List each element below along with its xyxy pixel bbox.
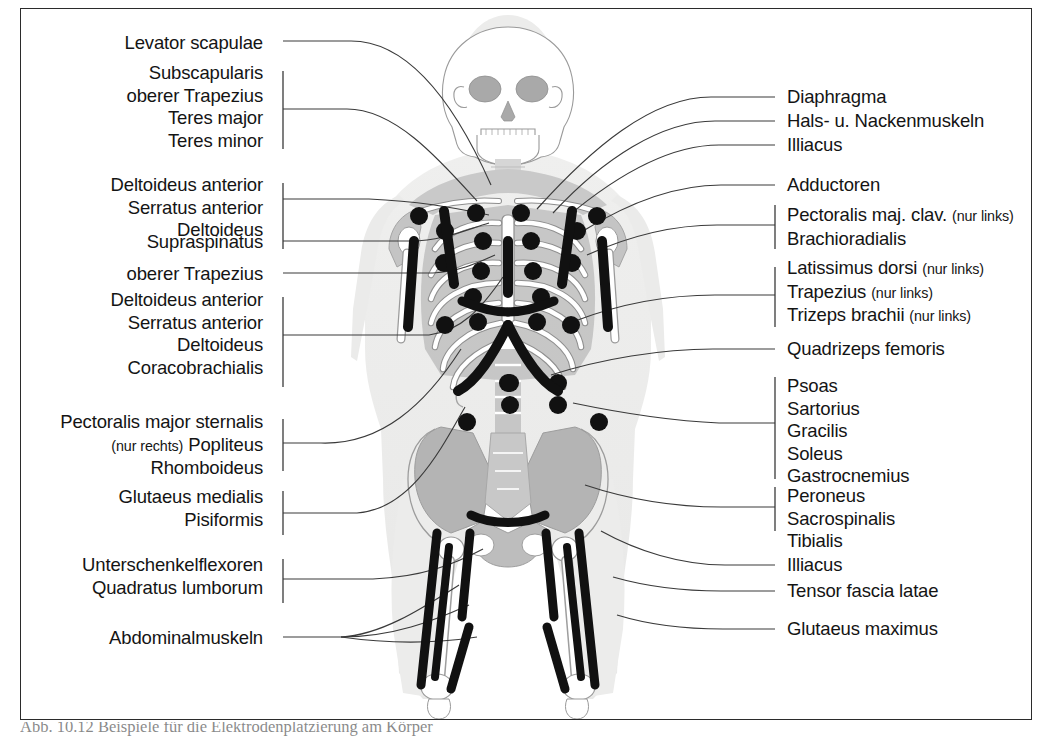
label-line: Diaphragma xyxy=(787,86,886,109)
label-group-glutaeus-maximus[interactable]: Glutaeus maximus xyxy=(787,618,938,641)
label-line: Subscapularis xyxy=(127,62,263,85)
label-line-popliteus: (nur rechts) Popliteus xyxy=(60,434,263,458)
label-group-unterschenkelflexoren[interactable]: Unterschenkelflexoren Quadratus lumborum xyxy=(82,554,263,599)
label-line: Deltoideus xyxy=(111,334,263,357)
label-line: Teres major xyxy=(127,107,263,130)
label-line-latissimus: Latissimus dorsi (nur links) xyxy=(787,257,984,281)
label-line-pectoralis-clav: Pectoralis maj. clav. (nur links) xyxy=(787,204,1014,228)
eye-socket-left xyxy=(469,76,501,102)
label-group-abdominalmuskeln[interactable]: Abdominalmuskeln xyxy=(109,627,263,650)
label-group-pectoralis-brachioradialis[interactable]: Pectoralis maj. clav. (nur links) Brachi… xyxy=(787,204,1014,250)
label-line: Sartorius xyxy=(787,398,909,421)
label-line: Unterschenkelflexoren xyxy=(82,554,263,577)
label-line: Coracobrachialis xyxy=(111,357,263,380)
label-line: Abdominalmuskeln xyxy=(109,627,263,650)
label-group-levator-scapulae[interactable]: Levator scapulae xyxy=(125,32,264,55)
label-line: Serratus anterior xyxy=(111,197,263,220)
label-line: Adductoren xyxy=(787,174,880,197)
label-group-illiacus-lower[interactable]: Illiacus xyxy=(787,554,842,577)
label-line: oberer Trapezius xyxy=(127,85,263,108)
qualifier-nur-links: (nur links) xyxy=(952,208,1014,224)
label-line: Levator scapulae xyxy=(125,32,264,55)
label-text: Trapezius xyxy=(787,281,866,302)
label-group-oberer-trapezius[interactable]: oberer Trapezius xyxy=(127,263,263,286)
label-line: Psoas xyxy=(787,375,909,398)
label-line: Brachioradialis xyxy=(787,228,1014,251)
label-line: Tibialis xyxy=(787,530,895,553)
label-line: Deltoideus anterior xyxy=(111,174,263,197)
label-line-trizeps: Trizeps brachii (nur links) xyxy=(787,304,984,328)
figure-frame: Levator scapulae Subscapularis oberer Tr… xyxy=(20,8,1032,720)
label-group-glutaeus-pisiformis[interactable]: Glutaeus medialis Pisiformis xyxy=(119,486,264,531)
label-group-illiacus-upper[interactable]: Illiacus xyxy=(787,134,842,157)
label-group-subscapularis[interactable]: Subscapularis oberer Trapezius Teres maj… xyxy=(127,62,263,152)
label-group-tensor-fascia-latae[interactable]: Tensor fascia latae xyxy=(787,580,938,603)
label-line: Deltoideus anterior xyxy=(111,289,263,312)
label-line: Tensor fascia latae xyxy=(787,580,938,603)
label-line: Rhomboideus xyxy=(60,457,263,480)
label-line: Peroneus xyxy=(787,485,895,508)
label-line: Soleus xyxy=(787,443,909,466)
label-line: Teres minor xyxy=(127,130,263,153)
label-line: Hals- u. Nackenmuskeln xyxy=(787,110,984,133)
label-line: Supraspinatus xyxy=(147,231,263,254)
label-group-adductoren[interactable]: Adductoren xyxy=(787,174,880,197)
label-line-trapezius: Trapezius (nur links) xyxy=(787,281,984,305)
label-group-latissimus-trizeps[interactable]: Latissimus dorsi (nur links) Trapezius (… xyxy=(787,257,984,328)
label-group-peroneus-tibialis[interactable]: Peroneus Sacrospinalis Tibialis xyxy=(787,485,895,553)
label-text: Popliteus xyxy=(188,434,263,455)
figure-caption: Abb. 10.12 Beispiele für die Elektrodenp… xyxy=(20,722,1032,736)
label-group-supraspinatus[interactable]: Supraspinatus xyxy=(147,231,263,254)
qualifier-nur-links: (nur links) xyxy=(922,261,984,277)
label-line: Pectoralis major sternalis xyxy=(60,411,263,434)
label-group-psoas-gastrocnemius[interactable]: Psoas Sartorius Gracilis Soleus Gastrocn… xyxy=(787,375,909,488)
label-line: Glutaeus medialis xyxy=(119,486,264,509)
label-group-deltoideus-coracobrachialis[interactable]: Deltoideus anterior Serratus anterior De… xyxy=(111,289,263,379)
label-line: Illiacus xyxy=(787,554,842,577)
label-line: Quadratus lumborum xyxy=(82,577,263,600)
label-line: Sacrospinalis xyxy=(787,508,895,531)
qualifier-nur-rechts: (nur rechts) xyxy=(111,438,183,454)
label-line: Serratus anterior xyxy=(111,312,263,335)
label-group-diaphragma[interactable]: Diaphragma xyxy=(787,86,886,109)
label-group-pectoralis-popliteus[interactable]: Pectoralis major sternalis (nur rechts) … xyxy=(60,411,263,480)
label-line: Glutaeus maximus xyxy=(787,618,938,641)
caption-text: Abb. 10.12 Beispiele für die Elektrodenp… xyxy=(20,722,433,736)
label-line: Pisiformis xyxy=(119,509,264,532)
qualifier-nur-links: (nur links) xyxy=(871,285,933,301)
label-group-quadrizeps-femoris[interactable]: Quadrizeps femoris xyxy=(787,338,945,361)
label-text: Latissimus dorsi xyxy=(787,257,917,278)
label-line: Illiacus xyxy=(787,134,842,157)
eye-socket-right xyxy=(516,76,548,102)
label-group-hals-nackenmuskeln[interactable]: Hals- u. Nackenmuskeln xyxy=(787,110,984,133)
label-text: Pectoralis maj. clav. xyxy=(787,204,947,225)
label-line: Gracilis xyxy=(787,420,909,443)
label-line: Quadrizeps femoris xyxy=(787,338,945,361)
qualifier-nur-links: (nur links) xyxy=(909,308,971,324)
label-line: oberer Trapezius xyxy=(127,263,263,286)
label-text: Trizeps brachii xyxy=(787,304,904,325)
